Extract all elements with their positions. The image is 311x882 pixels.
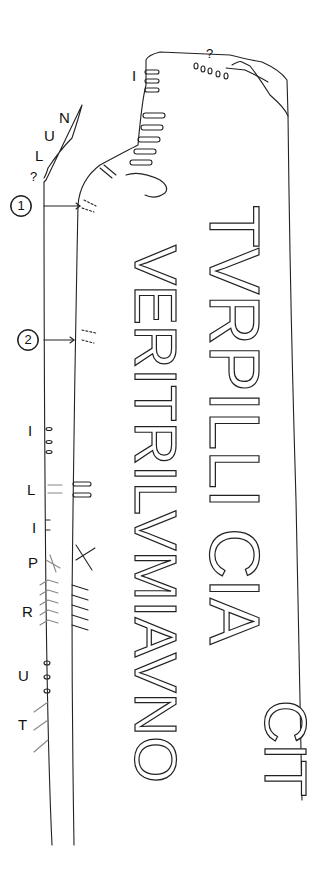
inner-edge-line [72,205,78,845]
label-I-2: I [32,520,36,535]
label-U: U [44,128,55,143]
label-top-question: ? [206,47,213,60]
inscription-line1: TVRPILLI CIA [195,205,273,645]
label-T: T [18,717,27,732]
label-P: P [28,555,38,570]
label-top-I: I [132,68,136,83]
label-N: N [59,110,70,125]
label-L-2: L [27,482,35,497]
stone-drawing: TVRPILLI CIA CIT VERITRILVMIAVNO I ? N U… [0,0,311,882]
label-I-1: I [28,423,32,438]
label-U-2: U [18,668,29,683]
inscription-line1-right: CIT [252,700,311,797]
left-edge-line [44,105,82,845]
marker-1: 1 [10,195,32,217]
marker-2: 2 [17,329,39,351]
label-question: ? [30,170,37,183]
label-R: R [22,604,33,619]
label-L: L [35,148,43,163]
inscription-line2: VERITRILVMIAVNO [122,245,189,783]
